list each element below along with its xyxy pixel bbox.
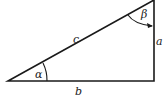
- side-label-c: c: [73, 33, 79, 46]
- side-label-a: a: [156, 35, 163, 48]
- alpha-arc: [43, 63, 47, 81]
- triangle-shape: [8, 0, 154, 81]
- angle-label-alpha: α: [35, 68, 43, 81]
- beta-arrowhead: [147, 23, 153, 28]
- angle-label-beta: β: [140, 8, 147, 21]
- right-triangle-diagram: c a b α β: [0, 0, 164, 102]
- side-label-b: b: [75, 85, 82, 98]
